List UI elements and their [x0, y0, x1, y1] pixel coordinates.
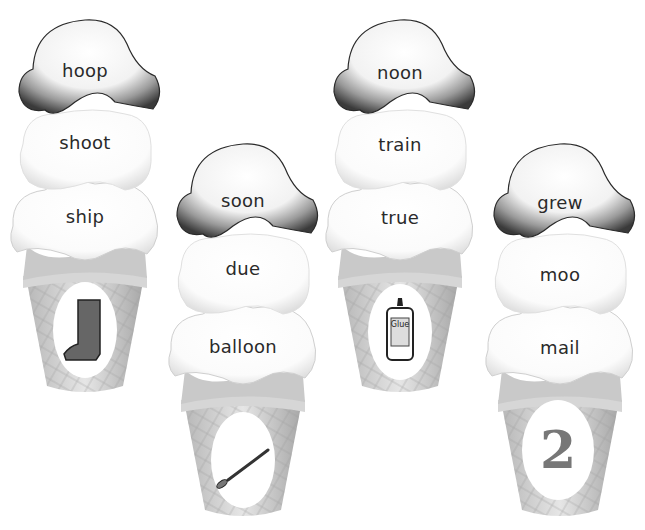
svg-text:Glue: Glue — [391, 320, 409, 329]
spoon-icon — [208, 410, 278, 510]
scoop-word-1: hoop — [5, 60, 165, 81]
scoop-word-2: moo — [480, 264, 640, 285]
scoop-word-2: due — [163, 258, 323, 279]
scoop-word-3: true — [320, 207, 480, 228]
ice-cream-cone-1: hoop shoot ship — [5, 14, 165, 404]
scoop-word-3: ship — [5, 206, 165, 227]
scoop-word-3: balloon — [163, 336, 323, 357]
scoop-word-1: noon — [320, 62, 480, 83]
scoop-word-1: soon — [163, 190, 323, 211]
scoop-word-2: shoot — [5, 132, 165, 153]
ice-cream-cone-2: soon due balloon — [163, 138, 323, 528]
page-number-badge: 2 — [522, 400, 594, 500]
scoop-word-1: grew — [480, 192, 640, 213]
page-number: 2 — [540, 419, 576, 480]
scoop-word-2: train — [320, 134, 480, 155]
ice-cream-cone-3: noon train true Glue — [320, 14, 480, 404]
ice-cream-cone-4: grew moo mail 2 — [480, 138, 640, 528]
scoop-word-3: mail — [480, 337, 640, 358]
boot-icon — [50, 280, 120, 380]
glue-bottle-icon: Glue — [365, 282, 435, 382]
